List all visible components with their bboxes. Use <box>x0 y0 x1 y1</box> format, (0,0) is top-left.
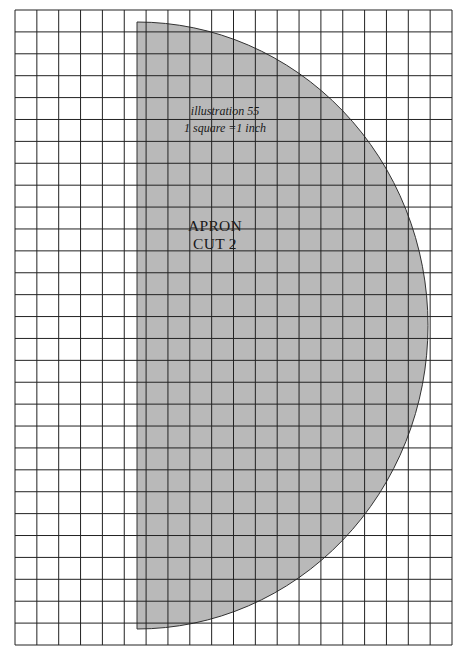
caption-scale: 1 square =1 inch <box>155 120 295 137</box>
piece-name: APRON <box>160 217 270 235</box>
piece-label: APRON CUT 2 <box>160 217 270 253</box>
pattern-diagram <box>0 0 462 659</box>
illustration-caption: illustration 55 1 square =1 inch <box>155 103 295 137</box>
piece-instruction: CUT 2 <box>160 235 270 253</box>
caption-title: illustration 55 <box>155 103 295 120</box>
